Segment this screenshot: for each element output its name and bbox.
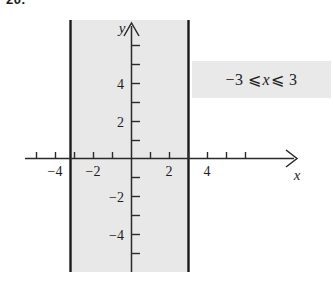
x-tick-label-pos2: 2 — [166, 164, 173, 179]
coordinate-plane: −4 −2 2 4 4 2 −2 −4 x y — [0, 0, 333, 286]
inequality-variable: x — [261, 71, 271, 88]
solution-inequality-text: −3 ⩽x⩽ 3 — [225, 70, 297, 89]
x-tick-label-neg4: −4 — [48, 164, 63, 179]
shaded-band-region — [70, 20, 188, 272]
inequality-graph-figure: 20. — [0, 0, 333, 286]
x-tick-label-neg2: −2 — [86, 164, 101, 179]
x-axis-label: x — [293, 167, 301, 183]
inequality-suffix: ⩽ 3 — [271, 71, 298, 88]
y-tick-label-neg2: −2 — [109, 190, 124, 205]
y-tick-label-pos2: 2 — [117, 115, 124, 130]
x-tick-label-pos4: 4 — [204, 164, 211, 179]
solution-callout-box: −3 ⩽x⩽ 3 — [192, 61, 331, 98]
inequality-prefix: −3 ⩽ — [225, 71, 261, 88]
y-axis-label: y — [117, 20, 126, 36]
y-tick-label-pos4: 4 — [117, 77, 124, 92]
y-tick-label-neg4: −4 — [109, 228, 124, 243]
